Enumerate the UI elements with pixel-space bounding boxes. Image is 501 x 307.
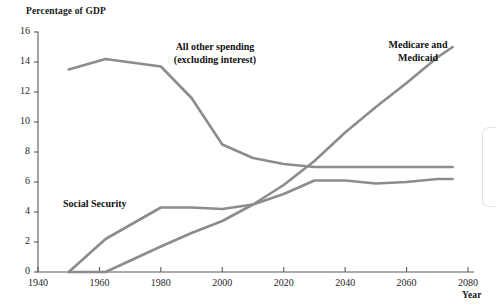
x-axis-title: Year: [462, 290, 482, 300]
chart-figure: Percentage of GDP Year 1614121086420 194…: [0, 0, 501, 307]
y-tick-label: 10: [8, 115, 30, 126]
series-label-medicare-and-medicaid: Medicare and Medicaid: [363, 39, 473, 64]
y-tick-label: 16: [8, 25, 30, 36]
y-tick-label: 6: [8, 175, 30, 186]
x-tick-label: 2000: [202, 277, 242, 288]
x-tick-label: 1980: [141, 277, 181, 288]
x-tick-label: 2080: [448, 277, 488, 288]
series-line-1: [69, 179, 453, 272]
y-axis-title: Percentage of GDP: [26, 6, 106, 16]
series-lines: [69, 47, 453, 272]
y-tick-label: 4: [8, 205, 30, 216]
series-label-social-security: Social Security: [63, 198, 173, 211]
x-tick-label: 1960: [79, 277, 119, 288]
x-tick-label: 2040: [325, 277, 365, 288]
y-tick-label: 14: [8, 55, 30, 66]
series-line-0: [69, 59, 453, 167]
x-tick-label: 1940: [18, 277, 58, 288]
axis-lines: [38, 32, 474, 273]
series-label-all-other-spending: All other spending (excluding interest): [155, 41, 275, 66]
x-tick-label: 2020: [264, 277, 304, 288]
x-tick-label: 2060: [387, 277, 427, 288]
axis-tick-marks: [34, 32, 468, 272]
y-tick-label: 12: [8, 85, 30, 96]
y-tick-label: 2: [8, 235, 30, 246]
y-tick-label: 0: [8, 265, 30, 276]
y-tick-label: 8: [8, 145, 30, 156]
